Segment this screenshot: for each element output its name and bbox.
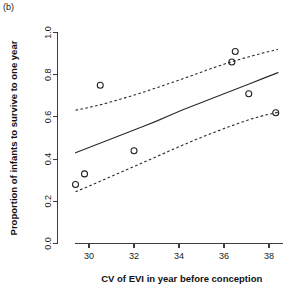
y-tick-label: 0.2 [43,195,53,208]
y-tick-label: 0.8 [43,68,53,81]
y-tick-label: 0.6 [43,111,53,124]
confidence-band-line [76,49,279,110]
y-axis: 0.00.20.40.60.81.0 [43,26,58,249]
data-point-marker [232,49,238,55]
x-tick-label: 36 [219,251,229,261]
x-tick-label: 34 [174,251,184,261]
x-axis-title: CV of EVI in year before conception [101,273,262,284]
fitted-curve-line [76,73,279,153]
data-point-marker [131,148,137,154]
data-point-marker [73,181,79,187]
scatter-plot: 0.00.20.40.60.81.0 3032343638 CV of EVI … [0,0,303,290]
x-tick-label: 30 [84,251,94,261]
data-point-marker [97,82,103,88]
y-tick-label: 0.0 [43,237,53,250]
plot-series [76,49,279,191]
y-tick-label: 1.0 [43,26,53,39]
y-axis-title: Proportion of infants to survive to one … [8,40,19,235]
x-tick-label: 38 [264,251,274,261]
data-point-marker [82,171,88,177]
confidence-band-line [76,112,279,192]
data-points [73,49,279,188]
data-point-marker [246,91,252,97]
y-tick-label: 0.4 [43,153,53,166]
x-axis: 3032343638 [75,244,283,262]
x-tick-label: 32 [129,251,139,261]
figure-panel: (b) 0.00.20.40.60.81.0 3032343638 CV of … [0,0,303,290]
